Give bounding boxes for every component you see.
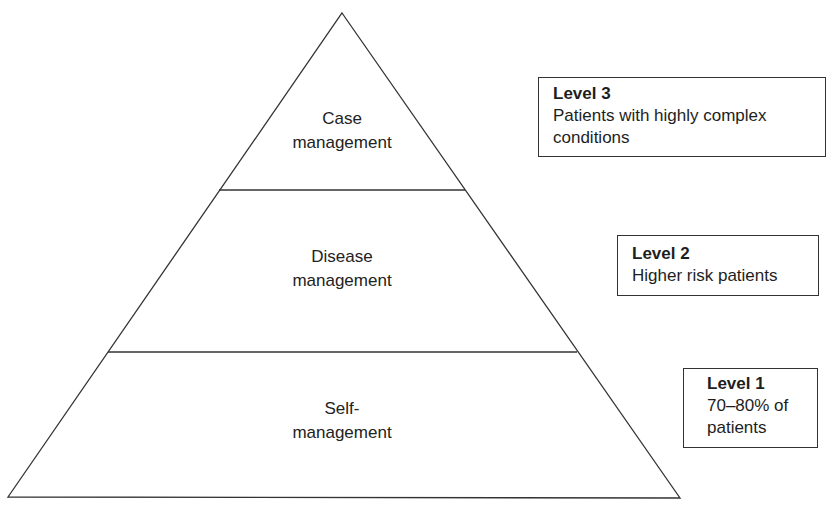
- tier-label-line: Disease: [262, 245, 422, 269]
- level-1-desc-line: patients: [707, 417, 817, 439]
- level-3-box: Level 3 Patients with highly complex con…: [538, 77, 826, 157]
- tier-label-line: Case: [262, 107, 422, 131]
- level-3-title: Level 3: [553, 83, 825, 105]
- tier-label-case-management: Case management: [262, 107, 422, 155]
- level-2-title: Level 2: [632, 243, 818, 265]
- level-1-desc-line: 70–80% of: [707, 395, 817, 417]
- tier-label-line: Self-: [262, 397, 422, 421]
- tier-label-line: management: [262, 131, 422, 155]
- level-2-desc-line: Higher risk patients: [632, 265, 818, 287]
- tier-label-disease-management: Disease management: [262, 245, 422, 293]
- level-1-box: Level 1 70–80% of patients: [683, 368, 818, 448]
- tier-label-line: management: [262, 269, 422, 293]
- tier-label-self-management: Self- management: [262, 397, 422, 445]
- level-3-desc-line: conditions: [553, 127, 825, 149]
- level-2-box: Level 2 Higher risk patients: [617, 235, 819, 296]
- level-3-desc-line: Patients with highly complex: [553, 105, 825, 127]
- tier-label-line: management: [262, 421, 422, 445]
- level-1-title: Level 1: [707, 373, 817, 395]
